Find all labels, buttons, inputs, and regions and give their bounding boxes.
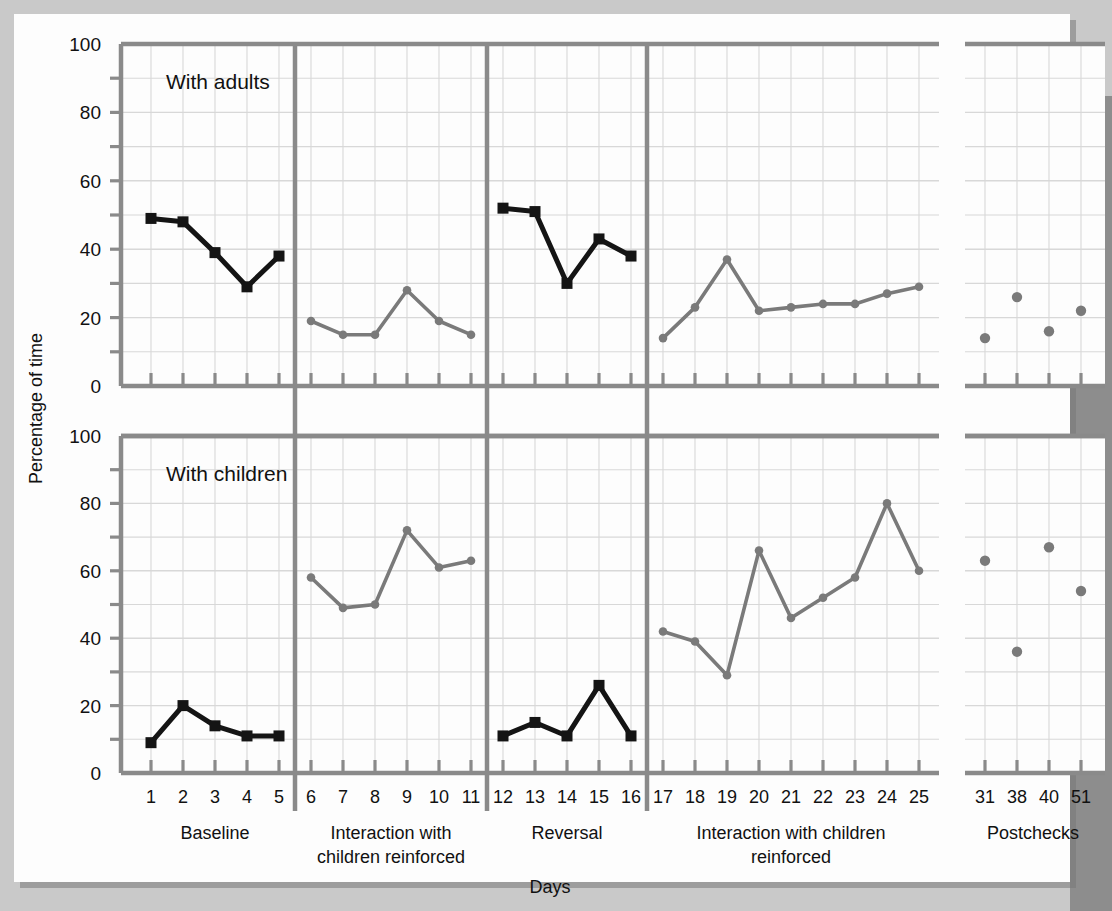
data-point-day-12 — [498, 730, 509, 741]
x-tick-label-10: 10 — [429, 787, 449, 807]
data-point-day-21 — [787, 303, 796, 312]
data-point-day-18 — [691, 303, 700, 312]
x-tick-label-17: 17 — [653, 787, 673, 807]
x-tick-label-38: 38 — [1007, 787, 1027, 807]
y-tick-label-100: 100 — [69, 34, 101, 55]
x-tick-label-13: 13 — [525, 787, 545, 807]
x-tick-label-7: 7 — [338, 787, 348, 807]
data-point-day-38 — [1012, 292, 1022, 302]
data-point-day-7 — [339, 330, 348, 339]
data-point-day-10 — [435, 563, 444, 572]
phase-label-reversal: Reversal — [531, 823, 602, 843]
phase-label-baseline: Baseline — [180, 823, 249, 843]
data-point-day-4 — [242, 730, 253, 741]
data-point-day-3 — [210, 720, 221, 731]
data-point-day-17 — [659, 334, 668, 343]
x-tick-label-5: 5 — [274, 787, 284, 807]
y-tick-label-40: 40 — [80, 239, 101, 260]
x-tick-label-15: 15 — [589, 787, 609, 807]
x-tick-label-6: 6 — [306, 787, 316, 807]
data-point-day-13 — [530, 717, 541, 728]
data-point-day-20 — [755, 306, 764, 315]
y-tick-label-20: 20 — [80, 696, 101, 717]
data-point-day-6 — [307, 573, 316, 582]
phase-label-interaction-with-children: Interaction with children — [696, 823, 885, 843]
data-point-day-10 — [435, 317, 444, 326]
data-point-day-7 — [339, 604, 348, 613]
phase-label-interaction-with: Interaction with — [330, 823, 451, 843]
data-point-day-13 — [530, 206, 541, 217]
data-point-day-12 — [498, 203, 509, 214]
x-axis-title: Days — [529, 877, 570, 897]
y-tick-label-0: 0 — [90, 376, 101, 397]
phase-labels: BaselineInteraction withchildren reinfor… — [180, 823, 1079, 867]
panel-title-with-children: With children — [166, 462, 287, 485]
y-tick-label-0: 0 — [90, 763, 101, 784]
data-point-day-40 — [1044, 542, 1054, 552]
y-tick-label-100: 100 — [69, 426, 101, 447]
x-tick-label-4: 4 — [242, 787, 252, 807]
data-point-day-23 — [851, 300, 860, 309]
y-tick-label-60: 60 — [80, 171, 101, 192]
x-tick-label-40: 40 — [1039, 787, 1059, 807]
data-point-day-24 — [883, 499, 892, 508]
data-point-day-38 — [1012, 646, 1022, 656]
x-tick-label-11: 11 — [462, 787, 481, 807]
data-point-day-51 — [1076, 586, 1086, 596]
x-tick-label-24: 24 — [877, 787, 897, 807]
data-point-day-11 — [467, 556, 476, 565]
data-point-day-2 — [178, 700, 189, 711]
data-point-day-2 — [178, 216, 189, 227]
phase-label-line2-3: reinforced — [751, 847, 831, 867]
data-point-day-16 — [626, 730, 637, 741]
x-tick-label-20: 20 — [749, 787, 769, 807]
y-axis-title: Percentage of time — [26, 333, 46, 484]
data-point-day-22 — [819, 593, 828, 602]
data-point-day-20 — [755, 546, 764, 555]
data-point-day-23 — [851, 573, 860, 582]
data-point-day-15 — [594, 680, 605, 691]
y-tick-label-20: 20 — [80, 308, 101, 329]
x-tick-label-1: 1 — [146, 787, 156, 807]
data-point-day-14 — [562, 730, 573, 741]
data-point-day-51 — [1076, 306, 1086, 316]
data-point-day-3 — [210, 247, 221, 258]
data-point-day-8 — [371, 600, 380, 609]
x-tick-label-18: 18 — [685, 787, 705, 807]
x-tick-label-14: 14 — [557, 787, 577, 807]
x-tick-label-22: 22 — [813, 787, 833, 807]
figure-root: 020406080100With adults020406080100With … — [0, 0, 1112, 911]
data-point-day-6 — [307, 317, 316, 326]
x-tick-label-21: 21 — [781, 787, 801, 807]
data-point-day-9 — [403, 526, 412, 535]
data-point-day-19 — [723, 671, 732, 680]
single-subject-design-chart: 020406080100With adults020406080100With … — [0, 0, 1112, 911]
x-tick-label-3: 3 — [210, 787, 220, 807]
data-point-day-24 — [883, 289, 892, 298]
data-point-day-16 — [626, 251, 637, 262]
data-point-day-14 — [562, 278, 573, 289]
data-point-day-25 — [915, 283, 924, 292]
x-tick-label-2: 2 — [178, 787, 188, 807]
panel-with-children: 020406080100With children — [69, 426, 1105, 784]
data-point-day-5 — [274, 730, 285, 741]
x-axis-tick-labels: 1234567891011121314151617181920212223242… — [146, 787, 1091, 807]
x-tick-label-9: 9 — [402, 787, 412, 807]
data-point-day-25 — [915, 567, 924, 576]
data-point-day-15 — [594, 233, 605, 244]
y-tick-label-80: 80 — [80, 493, 101, 514]
x-tick-label-23: 23 — [845, 787, 865, 807]
data-point-day-40 — [1044, 326, 1054, 336]
data-point-day-21 — [787, 614, 796, 623]
y-tick-label-60: 60 — [80, 561, 101, 582]
data-point-day-4 — [242, 281, 253, 292]
x-tick-label-16: 16 — [621, 787, 641, 807]
data-point-day-18 — [691, 637, 700, 646]
data-point-day-5 — [274, 251, 285, 262]
data-point-day-31 — [980, 555, 990, 565]
x-tick-label-31: 31 — [975, 787, 995, 807]
phase-label-postchecks: Postchecks — [987, 823, 1079, 843]
data-point-day-19 — [723, 255, 732, 264]
data-point-day-9 — [403, 286, 412, 295]
panel-with-adults: 020406080100With adults — [69, 34, 1105, 397]
